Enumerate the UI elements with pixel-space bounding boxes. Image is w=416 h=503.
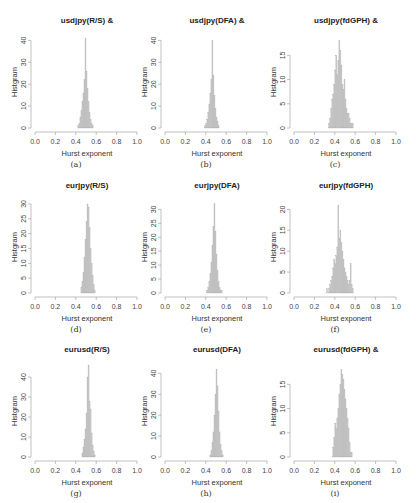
histogram-bar	[334, 260, 335, 293]
x-tick-label: 1.0	[391, 303, 401, 310]
histogram-bar	[92, 445, 93, 457]
y-tick-label: 40	[20, 36, 27, 44]
panel-title: eurjpy(R/S)	[66, 181, 109, 190]
x-tick-label: 0.6	[91, 138, 101, 145]
histogram-bars	[327, 205, 354, 293]
histogram-bar	[92, 126, 93, 128]
histogram-bar	[344, 268, 345, 293]
y-tick-label: 25	[150, 219, 157, 227]
histogram-bar	[348, 428, 349, 457]
histogram-bar	[211, 80, 212, 128]
x-tick-label: 0.4	[201, 467, 211, 474]
histogram-bar	[90, 248, 91, 293]
y-axis-label: Histgram	[10, 232, 19, 262]
y-axis-label: Histgram	[140, 396, 149, 426]
x-tick-label: 0.0	[289, 138, 299, 145]
histogram-bar	[217, 271, 218, 293]
histogram-bar	[91, 433, 92, 457]
y-tick-label: 5	[20, 276, 27, 280]
y-axis-label: Histgram	[10, 67, 19, 97]
histogram-bar	[220, 444, 221, 457]
histogram-bar	[330, 285, 331, 293]
y-axis-label: Histgram	[269, 67, 278, 97]
y-tick-label: 20	[20, 413, 27, 421]
panel-caption: (h)	[200, 489, 211, 498]
histogram-bar	[216, 254, 217, 293]
histogram-bar	[219, 432, 220, 457]
x-tick-label: 0.0	[30, 138, 40, 145]
y-tick-label: 0	[20, 291, 27, 295]
histogram-bars	[205, 40, 219, 128]
y-axis-label: Histgram	[140, 232, 149, 262]
panel-title: eurjpy(fdGPH)	[319, 181, 374, 190]
x-tick-label: 0.6	[91, 467, 101, 474]
histogram-bar	[345, 99, 346, 128]
histogram-bar	[346, 109, 347, 128]
histogram-bar	[340, 384, 341, 457]
x-tick-label: 0.4	[71, 303, 81, 310]
histogram-bar	[210, 273, 211, 293]
x-tick-label: 0.2	[181, 303, 191, 310]
histogram-panel-g: eurusd(R/S)0.00.20.40.60.81.0010203040Hi…	[0, 329, 138, 494]
histogram-bar	[85, 429, 86, 457]
x-tick-label: 0.6	[350, 467, 360, 474]
histogram-bar	[84, 80, 85, 128]
x-tick-label: 0.8	[371, 467, 381, 474]
histogram-bar	[88, 207, 89, 293]
histogram-bar	[351, 285, 352, 293]
histogram-bar	[92, 275, 93, 293]
x-tick-label: 0.8	[242, 138, 252, 145]
histogram-bar	[206, 124, 207, 128]
histogram-bar	[339, 41, 340, 128]
y-axis-label: Histgram	[10, 396, 19, 426]
histogram-bar	[84, 439, 85, 457]
histogram-bar	[336, 255, 337, 293]
panel-caption: (g)	[70, 489, 81, 498]
histogram-bar	[338, 205, 339, 293]
histogram-bar	[208, 287, 209, 293]
x-axis-label: Hurst exponent	[62, 149, 114, 158]
histogram-bar	[93, 451, 94, 457]
x-tick-label: 0.4	[71, 138, 81, 145]
histogram-bar	[339, 239, 340, 293]
histogram-bar	[222, 455, 223, 457]
y-tick-label: 10	[150, 102, 157, 110]
y-tick-label: 30	[150, 205, 157, 213]
y-tick-label: 0	[279, 126, 286, 130]
x-tick-label: 0.2	[51, 467, 61, 474]
y-tick-label: 0	[150, 291, 157, 295]
x-tick-label: 0.8	[371, 303, 381, 310]
x-tick-label: 1.0	[391, 467, 401, 474]
y-tick-label: 10	[150, 261, 157, 269]
histogram-bar	[218, 126, 219, 128]
histogram-bars	[78, 38, 93, 128]
histogram-bar	[214, 204, 215, 293]
histogram-bar	[338, 60, 339, 128]
histogram-bar	[79, 124, 80, 128]
x-tick-label: 0.8	[371, 138, 381, 145]
histogram-bar	[87, 204, 88, 293]
histogram-bar	[351, 452, 352, 457]
y-tick-label: 5	[279, 431, 286, 435]
histogram-bar	[215, 394, 216, 457]
histogram-bar	[335, 70, 336, 128]
histogram-bar	[88, 365, 89, 457]
histogram-bar	[210, 455, 211, 457]
histogram-bar	[333, 268, 334, 293]
x-tick-label: 0.8	[242, 467, 252, 474]
histogram-bar	[90, 409, 91, 457]
histogram-bar	[94, 455, 95, 457]
histogram-bar	[345, 272, 346, 293]
histogram-bar	[331, 109, 332, 128]
histogram-panel-a: usdjpy(R/S) &0.00.20.40.60.81.0010203040…	[0, 0, 138, 165]
x-tick-label: 0.6	[350, 138, 360, 145]
x-tick-label: 0.2	[181, 467, 191, 474]
histogram-bar	[209, 282, 210, 293]
histogram-bar	[81, 110, 82, 128]
x-tick-label: 0.6	[221, 138, 231, 145]
x-tick-label: 0.2	[310, 467, 320, 474]
histogram-bar	[78, 126, 79, 128]
y-tick-label: 15	[20, 244, 27, 252]
histogram-bar	[87, 89, 88, 128]
histogram-bar	[82, 453, 83, 457]
